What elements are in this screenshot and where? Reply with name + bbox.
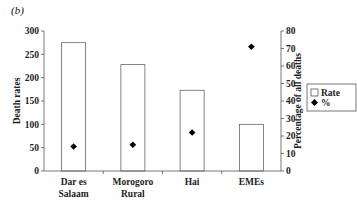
bar bbox=[62, 43, 86, 171]
y-tick-label-right: 10 bbox=[286, 149, 296, 159]
x-category-label: EMEs bbox=[239, 177, 265, 187]
x-axis: Dar esSalaamMorogoroRuralHaiEMEs bbox=[44, 171, 281, 199]
y-axis-title-right: Percentage of all deaths bbox=[293, 53, 303, 149]
x-category-label: MorogoroRural bbox=[112, 177, 153, 199]
legend-percent-label: % bbox=[321, 98, 331, 108]
y-tick-label-left: 300 bbox=[25, 26, 40, 36]
bar bbox=[121, 65, 145, 171]
y-tick-label-left: 0 bbox=[34, 166, 39, 176]
legend-rate-label: Rate bbox=[321, 88, 340, 98]
x-category-label: Hai bbox=[185, 177, 200, 187]
y-tick-label-left: 100 bbox=[25, 120, 40, 130]
legend: Rate % bbox=[307, 84, 356, 111]
y-tick-label-right: 80 bbox=[286, 26, 296, 36]
chart: 050100150200250300 01020304050607080 Dar… bbox=[0, 0, 357, 202]
y-tick-label-left: 250 bbox=[25, 50, 40, 60]
bar-series-rate bbox=[62, 43, 264, 171]
y-tick-label-left: 200 bbox=[25, 73, 40, 83]
y-tick-label-right: 70 bbox=[286, 44, 296, 54]
y-axis-title-left: Death rates bbox=[12, 77, 22, 124]
bar bbox=[239, 124, 263, 171]
diamond-marker-icon bbox=[248, 43, 255, 50]
left-axis: 050100150200250300 bbox=[25, 26, 44, 176]
legend-rate-swatch-icon bbox=[311, 89, 318, 96]
y-tick-label-left: 150 bbox=[25, 96, 40, 106]
y-tick-label-right: 0 bbox=[286, 166, 291, 176]
y-tick-label-left: 50 bbox=[30, 143, 40, 153]
x-category-label: Dar esSalaam bbox=[59, 177, 89, 199]
scatter-series-percent bbox=[70, 43, 254, 149]
